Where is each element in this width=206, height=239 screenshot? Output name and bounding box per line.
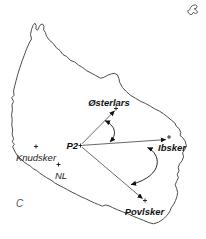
site-marker-ibsker bbox=[167, 135, 171, 139]
site-marker-knudsker bbox=[34, 145, 38, 149]
angle-arc-osterlars-ibsker bbox=[105, 121, 114, 142]
offshore-islet-outline bbox=[188, 5, 198, 15]
label-p2: P2 bbox=[66, 140, 78, 151]
label-povlsker: Povlsker bbox=[125, 206, 166, 217]
bornholm-map-svg: Østerlars P2 Ibsker Povlsker Knudsker NL… bbox=[0, 0, 206, 239]
label-knudsker: Knudsker bbox=[16, 152, 57, 163]
label-osterlars: Østerlars bbox=[88, 97, 130, 108]
site-marker-povlsker bbox=[143, 199, 147, 203]
label-ibsker: Ibsker bbox=[158, 142, 187, 153]
label-nl: NL bbox=[55, 170, 67, 181]
panel-label-c: C bbox=[16, 198, 24, 209]
site-marker-p2 bbox=[79, 144, 83, 148]
map-figure: Østerlars P2 Ibsker Povlsker Knudsker NL… bbox=[0, 0, 206, 239]
angle-arc-ibsker-povlsker bbox=[131, 148, 157, 185]
arrow-p2-to-ibsker bbox=[83, 140, 166, 146]
island-outline bbox=[12, 23, 187, 224]
arrow-p2-to-povlsker bbox=[82, 147, 143, 198]
arrow-p2-to-osterlars bbox=[82, 111, 115, 144]
site-marker-nl bbox=[57, 163, 61, 167]
